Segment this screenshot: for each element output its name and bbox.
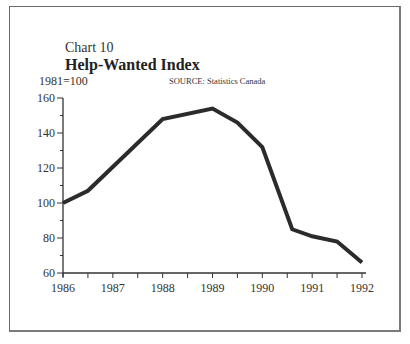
x-tick-label: 1990 xyxy=(250,281,274,295)
y-tick-label: 120 xyxy=(37,161,55,175)
y-tick-label: 80 xyxy=(43,231,55,245)
y-tick-label: 60 xyxy=(43,266,55,280)
y-tick-label: 140 xyxy=(37,126,55,140)
x-tick-label: 1988 xyxy=(151,281,175,295)
x-axis: 1986198719881989199019911992 xyxy=(51,273,374,295)
data-line xyxy=(63,109,362,263)
y-tick-label: 100 xyxy=(37,196,55,210)
line-chart: 6080100120140160 19861987198819891990199… xyxy=(0,0,410,344)
x-tick-label: 1991 xyxy=(300,281,324,295)
x-tick-label: 1989 xyxy=(201,281,225,295)
x-tick-label: 1992 xyxy=(350,281,374,295)
y-tick-label: 160 xyxy=(37,91,55,105)
x-tick-label: 1987 xyxy=(101,281,125,295)
x-tick-label: 1986 xyxy=(51,281,75,295)
y-axis: 6080100120140160 xyxy=(37,91,63,280)
